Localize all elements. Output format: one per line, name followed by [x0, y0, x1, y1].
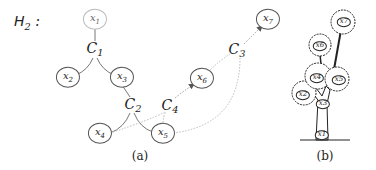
- tree-node-x2: x2: [296, 90, 310, 100]
- tree-node-x5: x5: [332, 75, 346, 85]
- tree-node-x1: x1: [315, 130, 329, 140]
- tree-illustration-icon: [0, 0, 376, 170]
- caption-b: (b): [316, 149, 333, 163]
- tree-node-x3: x3: [316, 99, 330, 109]
- tree-node-x7: x7: [337, 17, 351, 27]
- tree-node-x6: x6: [313, 41, 327, 51]
- tree-node-x4: x4: [310, 73, 324, 83]
